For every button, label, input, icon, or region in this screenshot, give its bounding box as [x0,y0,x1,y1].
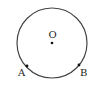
center-point-o [51,42,54,45]
point-b [78,64,81,67]
point-a [26,65,29,68]
label-b: B [80,67,87,78]
circle-diagram: O A B [0,0,97,86]
label-a: A [17,67,26,78]
label-o: O [49,29,57,40]
